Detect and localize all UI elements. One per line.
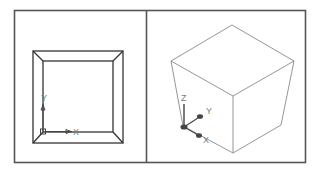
ucs-z-label: Z	[181, 93, 187, 103]
ucs-icon-2d	[41, 104, 73, 134]
viewport-frame	[15, 11, 306, 163]
ucs-x-label: X	[73, 127, 79, 137]
drawing-canvas[interactable]: Y X Z Y X	[0, 0, 320, 170]
isometric-viewport[interactable]: Z Y X	[171, 25, 294, 153]
top-view-viewport[interactable]: Y X	[33, 51, 123, 143]
ucs-y-label-3d: Y	[206, 106, 212, 116]
cube-geometry	[171, 25, 294, 153]
ucs-y-label: Y	[41, 93, 47, 103]
ucs-x-label-3d: X	[203, 135, 209, 145]
ucs-icon-3d	[181, 104, 203, 137]
